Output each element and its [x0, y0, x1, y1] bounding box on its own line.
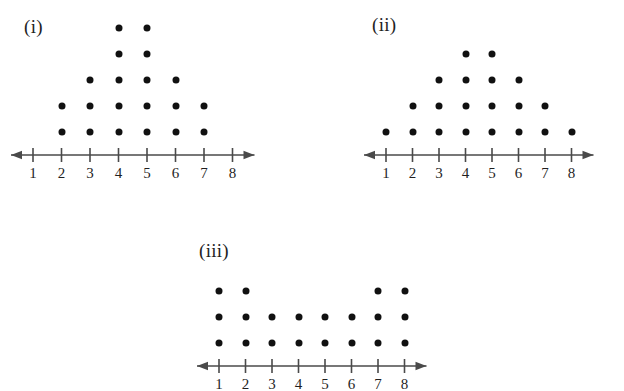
data-dot [216, 314, 223, 321]
axis-tick-label: 6 [348, 376, 356, 391]
data-dot [295, 340, 302, 347]
data-dot [401, 340, 408, 347]
axis-arrow-right-icon [416, 362, 427, 370]
axis-tick-label: 2 [242, 376, 250, 391]
data-dot [348, 340, 355, 347]
data-dot [322, 340, 329, 347]
data-dot [216, 340, 223, 347]
axis-tick-label: 3 [268, 376, 276, 391]
data-dot [242, 288, 249, 295]
data-dot [216, 288, 223, 295]
axis-arrow-left-icon [197, 362, 208, 370]
data-dot [322, 314, 329, 321]
data-dot [401, 314, 408, 321]
axis-tick-label: 1 [215, 376, 223, 391]
data-dot [242, 314, 249, 321]
data-dot [242, 340, 249, 347]
data-dot [269, 340, 276, 347]
data-dot [295, 314, 302, 321]
data-dot [269, 314, 276, 321]
axis-tick-label: 8 [401, 376, 409, 391]
number-line-axis-3 [0, 0, 624, 391]
axis-tick-label: 4 [295, 376, 303, 391]
data-dot [401, 288, 408, 295]
axis-tick-label: 5 [321, 376, 329, 391]
data-dot [375, 340, 382, 347]
axis-tick-label: 7 [374, 376, 382, 391]
data-dot [348, 314, 355, 321]
data-dot [375, 288, 382, 295]
data-dot [375, 314, 382, 321]
